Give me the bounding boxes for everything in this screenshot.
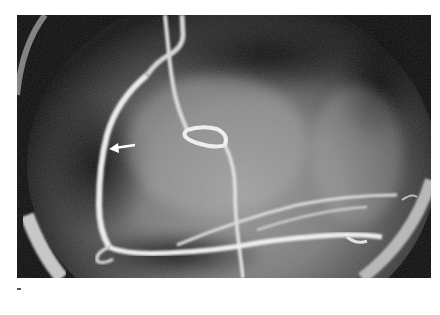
figure-mark [17, 288, 21, 290]
angiogram-svg [17, 15, 431, 278]
angiogram-image [17, 15, 431, 278]
